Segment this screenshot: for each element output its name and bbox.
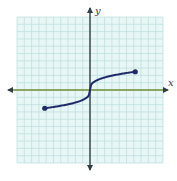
y-axis-label: y xyxy=(94,5,101,16)
x-axis-arrow-left-icon xyxy=(7,87,13,93)
x-axis-label: x xyxy=(168,77,174,88)
y-axis-arrow-down-icon xyxy=(87,165,93,171)
y-axis-arrow-up-icon xyxy=(87,7,93,13)
graph: x y xyxy=(0,0,177,181)
right-endpoint xyxy=(133,69,138,74)
left-endpoint xyxy=(42,106,47,111)
